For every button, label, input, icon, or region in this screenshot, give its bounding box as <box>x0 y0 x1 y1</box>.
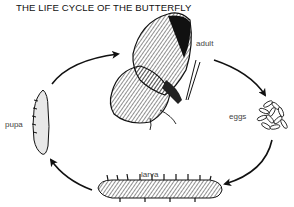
eggs-cluster-illustration <box>257 100 289 130</box>
stage-label-eggs: eggs <box>229 112 246 121</box>
arrow-larva-to-pupa <box>51 160 92 190</box>
stage-label-larva: larva <box>141 170 158 179</box>
larva-caterpillar-illustration <box>98 174 222 202</box>
stage-label-adult: adult <box>196 39 213 48</box>
arrow-adult-to-eggs <box>214 60 265 95</box>
butterfly-adult-illustration <box>110 13 200 130</box>
arrow-pupa-to-adult <box>52 54 118 84</box>
pupa-chrysalis-illustration <box>32 90 49 154</box>
arrow-eggs-to-larva <box>225 140 272 184</box>
stage-label-pupa: pupa <box>5 120 23 129</box>
